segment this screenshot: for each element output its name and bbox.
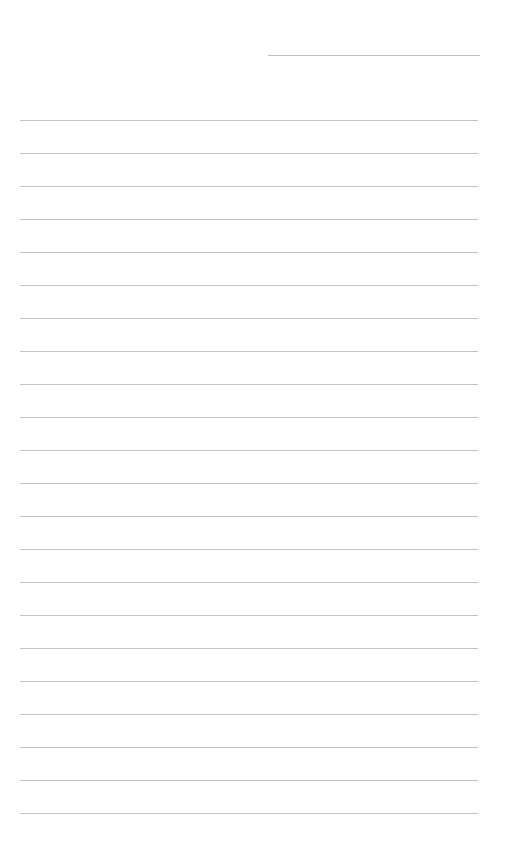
ruled-line xyxy=(20,384,478,417)
ruled-lines xyxy=(20,120,478,846)
ruled-line xyxy=(20,813,478,846)
ruled-line xyxy=(20,120,478,153)
ruled-line xyxy=(20,219,478,252)
ruled-line xyxy=(20,615,478,648)
ruled-line xyxy=(20,747,478,780)
ruled-line xyxy=(20,582,478,615)
ruled-line xyxy=(20,252,478,285)
ruled-line xyxy=(20,318,478,351)
ruled-line xyxy=(20,483,478,516)
ruled-line xyxy=(20,351,478,384)
ruled-line xyxy=(20,153,478,186)
ruled-line xyxy=(20,285,478,318)
date-line xyxy=(268,55,480,56)
ruled-line xyxy=(20,186,478,219)
ruled-line xyxy=(20,549,478,582)
ruled-line xyxy=(20,648,478,681)
ruled-line xyxy=(20,681,478,714)
ruled-line xyxy=(20,714,478,747)
ruled-line xyxy=(20,516,478,549)
ruled-line xyxy=(20,780,478,813)
ruled-line xyxy=(20,450,478,483)
ruled-line xyxy=(20,417,478,450)
